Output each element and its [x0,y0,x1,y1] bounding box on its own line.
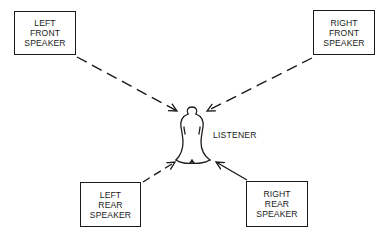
left-front-line3: SPEAKER [24,38,65,48]
right-front-arrow [207,58,312,111]
left-front-line1: LEFT [34,18,55,28]
left-front-line2: FRONT [30,28,60,38]
left-rear-line1: LEFT [100,190,121,200]
right-rear-speaker-box: RIGHT REAR SPEAKER [246,181,308,227]
left-rear-arrow [143,162,175,182]
listener-label: LISTENER [213,130,257,140]
right-rear-line1: RIGHT [263,189,290,199]
left-rear-line3: SPEAKER [90,210,131,220]
right-front-speaker-box: RIGHT FRONT SPEAKER [313,10,375,55]
right-front-line1: RIGHT [330,18,357,28]
left-front-speaker-box: LEFT FRONT SPEAKER [14,11,76,55]
listener-figure-icon [176,107,210,163]
left-rear-speaker-box: LEFT REAR SPEAKER [80,182,141,227]
left-rear-line2: REAR [98,200,122,210]
right-rear-line2: REAR [265,199,289,209]
left-front-arrow [77,57,177,111]
right-rear-arrow [216,162,247,180]
right-front-line2: FRONT [329,28,359,38]
right-rear-line3: SPEAKER [256,209,297,219]
right-front-line3: SPEAKER [323,38,364,48]
